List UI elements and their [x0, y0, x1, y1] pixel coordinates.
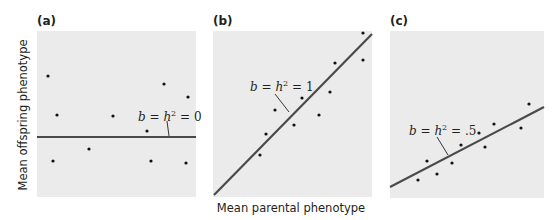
- data-point: [527, 102, 530, 105]
- data-point: [450, 161, 453, 164]
- panel-b-annotation: b = h2 = 1: [250, 79, 314, 94]
- data-point: [162, 82, 165, 85]
- data-point: [459, 143, 462, 146]
- heritability-figure: Mean offspring phenotype (a) b = h2 = 0 …: [0, 0, 560, 220]
- y-axis-label: Mean offspring phenotype: [16, 39, 30, 190]
- data-point: [416, 178, 419, 181]
- data-point: [361, 58, 364, 61]
- data-point: [111, 114, 114, 117]
- panel-a: (a) b = h2 = 0: [37, 14, 202, 197]
- data-point: [258, 153, 261, 156]
- data-point: [149, 159, 152, 162]
- data-point: [317, 113, 320, 116]
- data-point: [492, 122, 495, 125]
- data-point: [425, 159, 428, 162]
- data-point: [435, 172, 438, 175]
- panel-c-plot-area: [390, 31, 544, 198]
- data-point: [87, 147, 90, 150]
- panel-a-annotation: b = h2 = 0: [138, 109, 202, 124]
- data-point: [333, 61, 336, 64]
- data-point: [328, 90, 331, 93]
- data-point: [361, 31, 364, 34]
- data-point: [184, 161, 187, 164]
- panel-c: (c) b = h2 = .5: [390, 14, 544, 198]
- data-point: [46, 74, 49, 77]
- data-point: [145, 129, 148, 132]
- panel-b-label: (b): [213, 14, 233, 28]
- panel-b: (b) b = h2 = 1: [213, 14, 372, 197]
- data-point: [264, 132, 267, 135]
- x-axis-label: Mean parental phenotype: [217, 201, 365, 215]
- data-point: [51, 159, 54, 162]
- panel-a-label: (a): [37, 14, 56, 28]
- data-point: [55, 113, 58, 116]
- data-point: [186, 95, 189, 98]
- data-point: [300, 96, 303, 99]
- data-point: [477, 131, 480, 134]
- data-point: [292, 123, 295, 126]
- data-point: [273, 108, 276, 111]
- data-point: [519, 126, 522, 129]
- panel-c-label: (c): [390, 14, 408, 28]
- data-point: [483, 145, 486, 148]
